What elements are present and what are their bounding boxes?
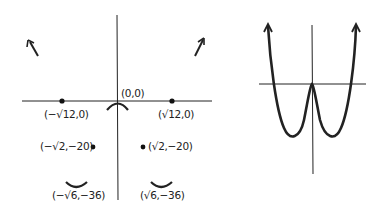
label-neg-root6: (−√6,−36)	[52, 189, 105, 201]
arrow-up-right-icon	[195, 38, 204, 56]
point-pos-root12	[169, 98, 174, 103]
label-pos-root12: (√12,0)	[158, 108, 194, 120]
label-pos-root2: (√2,−20)	[148, 140, 193, 152]
origin-label: (0,0)	[121, 87, 144, 99]
local-min-arc-left	[66, 182, 87, 187]
label-neg-root2: (−√2,−20)	[40, 140, 93, 152]
y-axis-right	[312, 25, 313, 174]
label-pos-root6: (√6,−36)	[140, 189, 185, 201]
local-min-arc-right	[151, 182, 172, 187]
point-pos-root2	[141, 145, 146, 150]
label-neg-root12: (−√12,0)	[44, 108, 89, 120]
point-neg-root12	[59, 98, 64, 103]
right-sketch	[259, 24, 366, 174]
y-axis-left	[117, 15, 118, 200]
arrow-up-left-icon	[27, 40, 38, 56]
